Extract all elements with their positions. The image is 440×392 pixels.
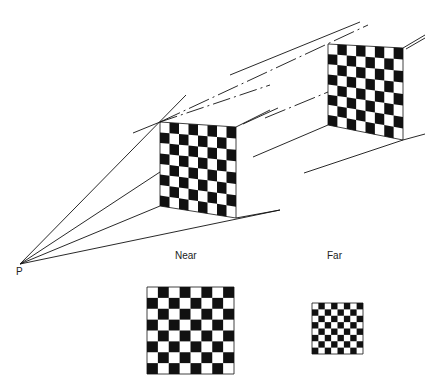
chessboards: [147, 44, 403, 374]
far-board-image: [312, 303, 363, 354]
point-p-label: P: [16, 266, 23, 277]
near-board-image: [147, 287, 234, 374]
far-label: Far: [327, 250, 342, 261]
near-board-perspective: [160, 122, 236, 218]
perspective-diagram: [0, 0, 440, 392]
far-board-perspective: [328, 44, 403, 140]
near-label: Near: [175, 250, 197, 261]
